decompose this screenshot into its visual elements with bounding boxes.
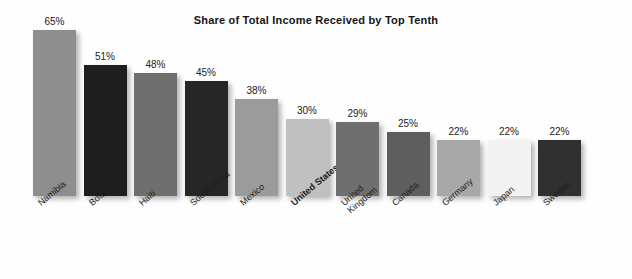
- bar-chart: Share of Total Income Received by Top Te…: [0, 0, 632, 279]
- bar-value-label: 45%: [185, 67, 228, 78]
- plot-area: 65%Namibia51%Botswana48%Haiti45%South Af…: [0, 0, 632, 279]
- bar[interactable]: [134, 73, 177, 196]
- bar-value-label: 29%: [336, 108, 379, 119]
- bar-value-label: 22%: [437, 126, 480, 137]
- bar-value-label: 65%: [33, 16, 76, 27]
- bar-value-label: 22%: [488, 126, 531, 137]
- bar-value-label: 22%: [538, 126, 581, 137]
- bar-value-label: 25%: [387, 118, 430, 129]
- bar-value-label: 38%: [235, 85, 278, 96]
- bar-value-label: 48%: [134, 59, 177, 70]
- bar-value-label: 51%: [84, 51, 127, 62]
- bar[interactable]: [235, 99, 278, 196]
- bar-value-label: 30%: [286, 105, 329, 116]
- bar[interactable]: [33, 30, 76, 196]
- bar[interactable]: [84, 65, 127, 196]
